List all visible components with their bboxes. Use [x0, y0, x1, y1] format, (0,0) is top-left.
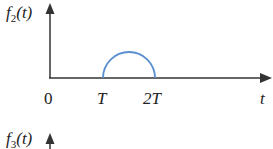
bottom-ylabel: f3(t)	[6, 130, 32, 149]
semicircle-pulse	[103, 52, 155, 78]
diagram-canvas	[0, 0, 273, 149]
tick-label-0: 0	[44, 90, 53, 107]
top-ylabel: f2(t)	[6, 4, 32, 24]
y-axis-bottom-arrow-icon	[46, 133, 55, 144]
y-axis-arrow-icon	[46, 3, 55, 14]
tick-label-T: T	[97, 90, 106, 107]
x-axis-label: t	[260, 90, 265, 107]
x-axis-arrow-icon	[260, 73, 272, 83]
tick-label-2T: 2T	[143, 90, 161, 107]
